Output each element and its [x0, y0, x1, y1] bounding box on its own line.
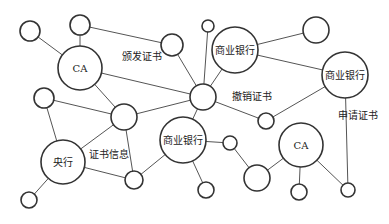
- node-circle: [291, 184, 307, 200]
- edge-label-apply-cert: 申请证书: [338, 109, 378, 121]
- node-bank1: 商业银行: [212, 27, 258, 73]
- node-label: CA: [73, 63, 89, 74]
- node-circle: [190, 84, 216, 110]
- node-circle: [161, 34, 183, 56]
- node-n4: [161, 34, 183, 56]
- node-n11: [111, 104, 137, 130]
- node-hub: [190, 84, 216, 110]
- node-circle: [111, 104, 137, 130]
- node-bank2: 商业银行: [322, 52, 368, 98]
- node-n22: [341, 183, 355, 197]
- node-label: 商业银行: [325, 69, 365, 81]
- node-n5: [202, 20, 214, 32]
- edge-label-issue-cert: 颁发证书: [122, 50, 162, 62]
- edge-n2-n4: [80, 25, 172, 45]
- node-n18: [198, 182, 214, 198]
- node-n2: [70, 15, 90, 35]
- edge-label-cert-info: 证书信息: [89, 148, 129, 160]
- node-circle: [341, 183, 355, 197]
- node-n12: [258, 113, 274, 129]
- node-circle: [198, 182, 214, 198]
- node-circle: [244, 165, 270, 191]
- node-label: 央行: [53, 156, 73, 168]
- network-diagram: CA商业银行商业银行央行商业银行CA 颁发证书撤销证书申请证书证书信息: [0, 0, 389, 224]
- node-circle: [20, 21, 40, 41]
- edge-label-revoke-cert: 撤销证书: [232, 90, 272, 102]
- node-circle: [21, 192, 37, 208]
- node-n19: [244, 165, 270, 191]
- node-circle: [125, 171, 143, 189]
- node-label: 商业银行: [163, 134, 203, 146]
- node-n7: [303, 17, 329, 43]
- node-circle: [34, 88, 54, 108]
- node-ca1: CA: [58, 46, 102, 90]
- node-circle: [303, 17, 329, 43]
- node-n17: [21, 192, 37, 208]
- node-n10: [34, 88, 54, 108]
- node-circle: [258, 113, 274, 129]
- node-n15: [223, 136, 237, 150]
- node-central: 央行: [41, 140, 85, 184]
- node-n21: [291, 184, 307, 200]
- node-circle: [202, 20, 214, 32]
- node-bank3: 商业银行: [160, 117, 206, 163]
- node-n16: [125, 171, 143, 189]
- node-ca2: CA: [279, 123, 323, 167]
- diagram-svg: CA商业银行商业银行央行商业银行CA 颁发证书撤销证书申请证书证书信息: [0, 0, 389, 224]
- nodes-layer: CA商业银行商业银行央行商业银行CA: [20, 15, 368, 208]
- node-circle: [70, 15, 90, 35]
- node-label: 商业银行: [215, 44, 255, 56]
- node-label: CA: [294, 140, 310, 151]
- node-n1: [20, 21, 40, 41]
- node-circle: [223, 136, 237, 150]
